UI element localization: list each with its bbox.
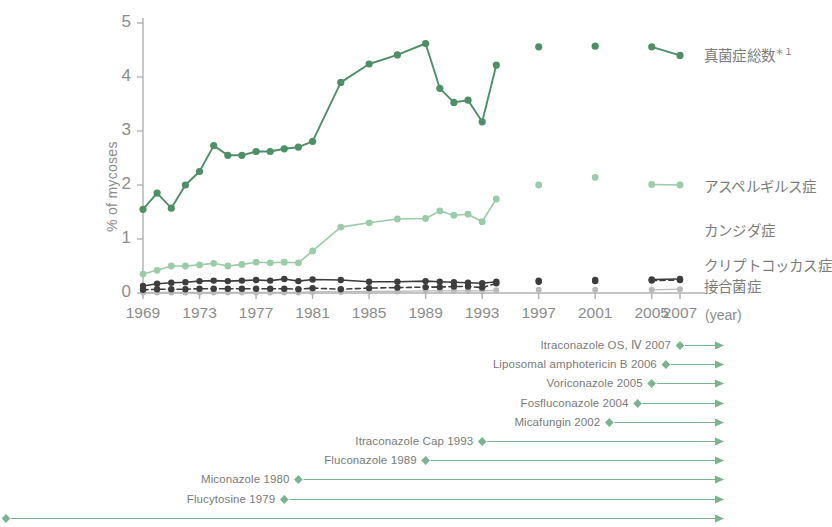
data-point xyxy=(239,286,245,292)
data-point xyxy=(253,286,259,292)
data-point xyxy=(592,174,599,181)
timeline-arrow-head xyxy=(715,495,724,503)
y-tick-label-5: 5 xyxy=(107,12,131,32)
data-point xyxy=(648,43,655,50)
data-point xyxy=(239,261,246,268)
data-point xyxy=(196,286,202,292)
timeline-diamond-marker xyxy=(633,398,642,407)
data-point xyxy=(493,287,499,293)
y-tick-label-3: 3 xyxy=(107,120,131,140)
timeline-diamond-marker xyxy=(647,379,656,388)
data-point xyxy=(451,212,458,219)
data-point xyxy=(196,262,203,269)
x-tick-label-1969: 1969 xyxy=(113,304,173,322)
data-point xyxy=(648,181,655,188)
data-point xyxy=(238,152,245,159)
series-1 xyxy=(140,174,684,278)
data-point xyxy=(677,182,684,189)
data-point xyxy=(479,218,486,225)
data-point xyxy=(281,276,287,282)
legend-item-0: 真菌症総数＊１ xyxy=(704,44,793,65)
data-point xyxy=(154,190,161,197)
data-point xyxy=(168,263,175,270)
data-point xyxy=(295,278,301,284)
data-point xyxy=(253,148,260,155)
timeline-diamond-marker xyxy=(478,437,487,446)
legend-item-2: カンジダ症 xyxy=(704,219,775,240)
timeline-row: Fosfluconazole 2004 xyxy=(0,394,830,413)
data-point xyxy=(210,260,217,267)
y-tick-label-1: 1 xyxy=(107,228,131,248)
series-line xyxy=(143,290,496,292)
data-point xyxy=(337,224,344,231)
data-point xyxy=(436,208,443,215)
data-point xyxy=(592,277,598,283)
data-point xyxy=(394,284,400,290)
y-tick-label-0: 0 xyxy=(107,282,131,302)
data-point xyxy=(422,278,428,284)
data-point xyxy=(182,181,189,188)
data-point xyxy=(281,259,288,266)
data-point xyxy=(535,182,542,189)
series-line xyxy=(143,279,496,286)
data-point xyxy=(338,277,344,283)
timeline-arrow-head xyxy=(715,361,724,369)
y-tick-label-2: 2 xyxy=(107,174,131,194)
series-line xyxy=(143,199,496,274)
timeline-arrow xyxy=(0,470,830,489)
data-point xyxy=(451,279,457,285)
data-point xyxy=(677,276,683,282)
data-point xyxy=(267,148,274,155)
data-point xyxy=(140,283,146,289)
series-line xyxy=(652,289,680,290)
data-point xyxy=(465,211,472,218)
data-point xyxy=(224,152,231,159)
data-point xyxy=(592,287,598,293)
timeline-arrow xyxy=(0,490,830,509)
data-point xyxy=(366,60,373,67)
data-point xyxy=(196,168,203,175)
data-point xyxy=(465,280,471,286)
data-point xyxy=(493,196,500,203)
timeline-row: Voriconazole 2005 xyxy=(0,374,830,393)
x-tick-label-1973: 1973 xyxy=(170,304,230,322)
timeline-row: Micafungin 2002 xyxy=(0,413,830,432)
data-point xyxy=(437,279,443,285)
data-point xyxy=(267,277,273,283)
data-point xyxy=(211,277,217,283)
data-point xyxy=(225,278,231,284)
x-tick-label-2001: 2001 xyxy=(565,304,625,322)
timeline-label: Liposomal amphotericin B 2006 xyxy=(493,355,657,374)
data-point xyxy=(479,280,485,286)
timeline-arrow xyxy=(0,509,830,527)
data-point xyxy=(281,286,287,292)
timeline-arrow-head xyxy=(715,380,724,388)
data-point xyxy=(464,97,471,104)
data-point xyxy=(649,276,655,282)
data-point xyxy=(366,285,372,291)
timeline-arrow-head xyxy=(715,399,724,407)
legend-label: 真菌症総数 xyxy=(704,48,775,64)
series-line xyxy=(652,185,680,186)
legend-label: カンジダ症 xyxy=(704,223,775,239)
timeline-arrow-head xyxy=(715,438,724,446)
data-point xyxy=(677,286,683,292)
timeline-diamond-marker xyxy=(662,360,671,369)
data-point xyxy=(366,219,373,226)
data-point xyxy=(309,138,316,145)
data-point xyxy=(182,263,189,270)
data-point xyxy=(295,144,302,151)
mycoses-line-chart: % of mycoses 012345 19691973197719811985… xyxy=(0,0,830,330)
timeline-arrow xyxy=(0,336,830,355)
series-line xyxy=(652,47,680,56)
timeline-label: Miconazole 1980 xyxy=(201,470,289,489)
timeline-row: Fluconazole 1989 xyxy=(0,451,830,470)
timeline-arrow xyxy=(0,413,830,432)
data-point xyxy=(536,277,542,283)
legend-label: アスペルギルス症 xyxy=(704,179,817,195)
data-point xyxy=(309,285,315,291)
x-tick-label-1977: 1977 xyxy=(226,304,286,322)
legend-item-3: クリプトコッカス症 xyxy=(704,254,832,275)
data-point xyxy=(676,52,683,59)
